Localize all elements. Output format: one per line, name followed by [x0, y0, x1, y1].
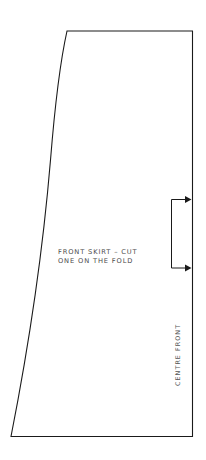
- pattern-drawing-page: FRONT SKIRT – CUT ONE ON THE FOLD CENTRE…: [0, 0, 206, 460]
- front-skirt-label-line2: ONE ON THE FOLD: [58, 257, 133, 265]
- skirt-panel-outline: [11, 31, 193, 437]
- centre-front-label: CENTRE FRONT: [174, 324, 182, 386]
- sewing-pattern-diagram: FRONT SKIRT – CUT ONE ON THE FOLD CENTRE…: [0, 0, 206, 460]
- front-skirt-label-line1: FRONT SKIRT – CUT: [58, 248, 138, 256]
